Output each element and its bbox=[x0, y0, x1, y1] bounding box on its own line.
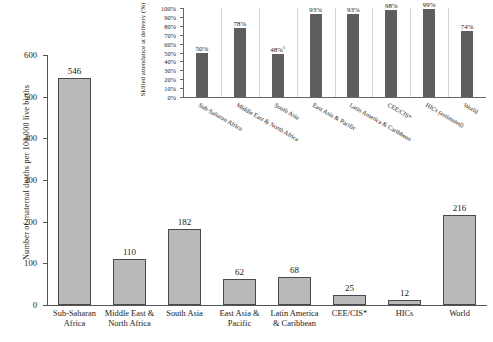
inset-bar-chart: Skilled attendance at delivery (%) 0%10%… bbox=[134, 2, 492, 150]
main-bar-value-label: 62 bbox=[235, 267, 244, 277]
main-bar-value-label: 110 bbox=[123, 247, 136, 257]
inset-y-tick-label: 60% bbox=[164, 40, 176, 47]
inset-x-axis-line bbox=[183, 97, 486, 98]
inset-y-tick-label: 50% bbox=[164, 49, 176, 56]
main-x-tick-label: World bbox=[425, 309, 493, 319]
main-y-tick: 100 bbox=[43, 263, 47, 264]
main-bar bbox=[443, 215, 476, 305]
inset-bar bbox=[272, 54, 284, 97]
inset-y-tick-label: 90% bbox=[164, 13, 176, 20]
inset-y-tick: 100% bbox=[180, 8, 183, 9]
main-y-axis-title: Number of maternal deaths per 100,000 li… bbox=[22, 53, 31, 293]
inset-y-tick: 70% bbox=[180, 35, 183, 36]
inset-y-tick: 40% bbox=[180, 61, 183, 62]
inset-gridline bbox=[259, 8, 260, 97]
main-bar bbox=[113, 259, 146, 305]
inset-bar bbox=[310, 14, 322, 97]
inset-bar-value-label: 78% bbox=[233, 20, 246, 27]
inset-bar-value-label: 93% bbox=[309, 6, 322, 13]
main-y-tick: 600 bbox=[43, 55, 47, 56]
inset-y-tick-label: 30% bbox=[164, 67, 176, 74]
main-y-tick-label: 600 bbox=[24, 50, 37, 60]
inset-gridline bbox=[448, 8, 449, 97]
main-y-axis-line bbox=[47, 55, 48, 305]
inset-bar-value-label: 99% bbox=[423, 1, 436, 8]
inset-y-tick: 0% bbox=[180, 97, 183, 98]
main-y-tick-label: 400 bbox=[24, 133, 37, 143]
main-y-tick-label: 500 bbox=[24, 92, 37, 102]
chart-figure: Number of maternal deaths per 100,000 li… bbox=[0, 0, 493, 342]
inset-gridline bbox=[221, 8, 222, 97]
inset-y-tick: 50% bbox=[180, 53, 183, 54]
main-bar-value-label: 182 bbox=[178, 217, 192, 227]
main-bar-value-label: 546 bbox=[68, 66, 82, 76]
inset-x-tick-label: World bbox=[463, 101, 480, 115]
inset-bar-value-label: 50% bbox=[196, 45, 209, 52]
inset-x-tick-label: HICs (estimated) bbox=[425, 101, 466, 129]
inset-y-tick: 30% bbox=[180, 70, 183, 71]
inset-x-tick-label: South Asia bbox=[273, 101, 300, 121]
inset-gridline bbox=[410, 8, 411, 97]
inset-plot-area: 0%10%20%30%40%50%60%70%80%90%100% 50%78%… bbox=[183, 8, 486, 97]
main-bar-value-label: 12 bbox=[400, 288, 409, 298]
main-y-tick-label: 300 bbox=[24, 175, 37, 185]
inset-x-tick-label: CEE/CIS* bbox=[387, 101, 414, 120]
inset-y-tick-label: 0% bbox=[167, 94, 176, 101]
main-y-tick: 200 bbox=[43, 222, 47, 223]
main-bar-value-label: 216 bbox=[453, 203, 467, 213]
inset-y-tick: 90% bbox=[180, 17, 183, 18]
main-y-tick-label: 0 bbox=[33, 300, 37, 310]
inset-y-tick: 80% bbox=[180, 26, 183, 27]
main-bar bbox=[278, 277, 311, 305]
inset-y-tick-label: 10% bbox=[164, 85, 176, 92]
main-bar-value-label: 25 bbox=[345, 283, 354, 293]
main-y-tick: 400 bbox=[43, 138, 47, 139]
inset-bar bbox=[234, 28, 246, 97]
main-bar bbox=[168, 229, 201, 305]
inset-x-tick-label: Latin America & Caribbean bbox=[349, 101, 413, 142]
main-bar bbox=[223, 279, 256, 305]
main-bar bbox=[58, 78, 91, 306]
main-x-axis-line bbox=[47, 305, 487, 306]
inset-bar-value-label: 74% bbox=[461, 23, 474, 30]
inset-bar-value-label: 98% bbox=[385, 2, 398, 9]
main-y-tick-label: 100 bbox=[24, 258, 37, 268]
inset-bar bbox=[196, 53, 208, 98]
inset-bar bbox=[385, 10, 397, 97]
inset-y-tick: 10% bbox=[180, 88, 183, 89]
inset-y-axis-line bbox=[183, 8, 184, 97]
main-y-tick: 300 bbox=[43, 180, 47, 181]
inset-bar-value-label: 48%1 bbox=[270, 45, 285, 53]
main-y-tick-label: 200 bbox=[24, 217, 37, 227]
main-bar bbox=[333, 295, 366, 305]
inset-y-axis-title: Skilled attendance at delivery (%) bbox=[139, 2, 146, 98]
main-y-tick: 0 bbox=[43, 305, 47, 306]
main-bar bbox=[388, 300, 421, 305]
inset-y-tick-label: 70% bbox=[164, 31, 176, 38]
inset-gridline bbox=[297, 8, 298, 97]
main-y-tick: 500 bbox=[43, 97, 47, 98]
inset-gridline bbox=[372, 8, 373, 97]
inset-y-tick: 60% bbox=[180, 44, 183, 45]
inset-bar-value-label: 93% bbox=[347, 6, 360, 13]
inset-y-tick-label: 80% bbox=[164, 22, 176, 29]
inset-y-tick-label: 20% bbox=[164, 76, 176, 83]
inset-gridline bbox=[335, 8, 336, 97]
inset-y-tick-label: 100% bbox=[161, 5, 176, 12]
inset-bar bbox=[347, 14, 359, 97]
inset-y-tick: 20% bbox=[180, 79, 183, 80]
inset-y-tick-label: 40% bbox=[164, 58, 176, 65]
inset-bar bbox=[423, 9, 435, 97]
inset-bar bbox=[461, 31, 473, 97]
inset-x-tick-label: Middle East & North Africa bbox=[235, 101, 300, 142]
main-bar-value-label: 68 bbox=[290, 265, 299, 275]
